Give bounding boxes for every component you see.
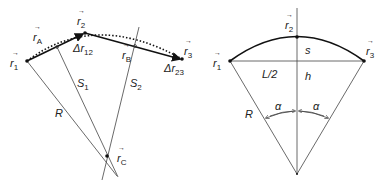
label-delta-r12: Δr12 [72, 42, 93, 57]
point-r1-right [228, 59, 232, 63]
point-r3 [180, 57, 184, 61]
vec-rC: → [118, 144, 125, 151]
label-rC: rC [117, 152, 127, 167]
label-alpha-right: α [313, 100, 320, 112]
vec-r3-right: → [367, 37, 374, 44]
vec-r2: → [78, 7, 85, 14]
point-center-right [296, 173, 298, 175]
angle-arc-right [300, 111, 328, 118]
label-s2: S2 [130, 77, 142, 92]
label-rA: rA [33, 31, 43, 46]
label-rB: rB [122, 49, 131, 64]
point-r2 [83, 31, 87, 35]
vec-r1: → [12, 49, 19, 56]
label-l-half: L/2 [262, 68, 277, 80]
label-radius: R [55, 107, 63, 119]
vec-r2-right: → [286, 11, 293, 18]
label-alpha-left: α [275, 100, 282, 112]
vec-rA: → [34, 23, 41, 30]
right-diagram: r1 → r2 → r3 → s L/2 h R α α [213, 8, 375, 175]
bisector-s1 [57, 47, 118, 177]
left-diagram: r1 → r2 → r3 → rA → rB → rC → Δr12 Δr23 … [10, 7, 193, 180]
angle-arc-left [266, 111, 294, 118]
curvature-diagram: r1 → r2 → r3 → rA → rB → rC → Δr12 Δr23 … [0, 0, 385, 187]
label-r3: r3 [184, 45, 193, 60]
point-r1 [25, 59, 29, 63]
point-r2-right [295, 35, 299, 39]
point-r3-right [362, 59, 366, 63]
label-h: h [305, 70, 311, 82]
label-r2-right: r2 [285, 19, 294, 34]
label-radius-right: R [245, 108, 253, 120]
label-r3-right: r3 [366, 45, 375, 60]
label-r1-right: r1 [213, 57, 222, 72]
label-r1: r1 [10, 57, 19, 72]
vec-r1-right: → [214, 49, 221, 56]
label-r2: r2 [77, 15, 86, 30]
label-s1: S1 [77, 77, 89, 92]
vec-rB: → [123, 41, 130, 48]
point-rC [105, 154, 109, 158]
vec-r3: → [185, 37, 192, 44]
label-delta-r23: Δr23 [163, 62, 184, 77]
label-s: s [305, 44, 311, 56]
